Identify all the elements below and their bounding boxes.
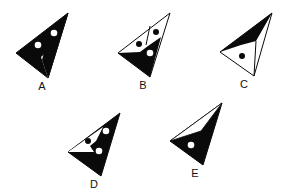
option-label-c: C <box>240 78 248 90</box>
white-dot <box>51 30 58 37</box>
options-diagram: A B C D E <box>0 0 285 192</box>
black-dot <box>153 29 159 35</box>
white-dot <box>35 42 42 49</box>
white-dot <box>147 50 154 57</box>
white-dot <box>103 128 110 135</box>
option-c-figure[interactable]: C <box>220 13 272 90</box>
black-dot <box>239 53 245 59</box>
triangle-d-outline <box>68 113 120 176</box>
option-label-d: D <box>90 178 98 190</box>
black-dot <box>136 41 142 47</box>
black-dot <box>85 138 91 144</box>
option-label-b: B <box>139 79 146 91</box>
option-label-a: A <box>38 80 46 92</box>
option-label-e: E <box>191 167 198 179</box>
triangle-a-outline <box>16 13 68 78</box>
option-a-figure[interactable]: A <box>16 13 68 92</box>
white-dot <box>188 142 195 149</box>
black-dot <box>46 50 52 56</box>
option-b-figure[interactable]: B <box>118 13 170 91</box>
option-e-figure[interactable]: E <box>170 103 222 179</box>
option-d-figure[interactable]: D <box>68 113 120 190</box>
white-dot <box>96 148 103 155</box>
